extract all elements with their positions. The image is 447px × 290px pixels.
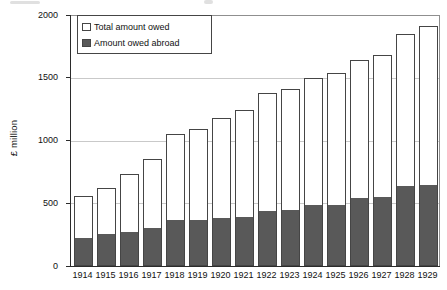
legend-swatch-total-icon — [82, 23, 91, 31]
plot-frame-right — [439, 15, 440, 266]
bar-abroad-segment-1914 — [75, 238, 92, 265]
bar-abroad-segment-1924 — [305, 205, 322, 265]
bar-abroad-segment-1926 — [351, 198, 368, 265]
y-tick-label-0: 0 — [18, 261, 58, 271]
y-tick-label-1000: 1000 — [18, 135, 58, 145]
legend-swatch-abroad-icon — [82, 39, 91, 47]
bar-1919 — [189, 129, 208, 266]
bar-1929 — [419, 26, 438, 266]
x-axis-line — [70, 266, 440, 267]
bar-abroad-segment-1916 — [121, 232, 138, 266]
bar-1924 — [304, 78, 323, 266]
bar-1914 — [74, 196, 93, 266]
y-tick-mark-1500 — [66, 77, 71, 78]
bar-abroad-segment-1925 — [328, 205, 345, 265]
bar-1915 — [97, 188, 116, 266]
y-tick-label-1500: 1500 — [18, 72, 58, 82]
y-tick-mark-500 — [66, 203, 71, 204]
legend-item-total: Total amount owed — [82, 20, 211, 33]
y-tick-mark-0 — [66, 266, 71, 267]
bar-abroad-segment-1918 — [167, 220, 184, 265]
legend-label-total: Total amount owed — [94, 22, 170, 32]
cropped-caption-fragment — [204, 0, 213, 4]
bar-1925 — [327, 73, 346, 266]
bar-abroad-segment-1927 — [374, 197, 391, 265]
legend: Total amount owed Amount owed abroad — [77, 15, 212, 54]
bar-abroad-segment-1921 — [236, 217, 253, 265]
national-debt-bar-chart: £ million Total amount owed Amount owed … — [0, 0, 447, 290]
y-axis-title: £ million — [8, 120, 19, 157]
bar-abroad-segment-1923 — [282, 210, 299, 265]
bar-1922 — [258, 93, 277, 266]
bar-1917 — [143, 159, 162, 266]
bar-1927 — [373, 55, 392, 266]
legend-item-abroad: Amount owed abroad — [82, 36, 211, 49]
bar-abroad-segment-1928 — [397, 186, 414, 265]
bar-1926 — [350, 60, 369, 266]
y-tick-mark-1000 — [66, 140, 71, 141]
y-tick-label-500: 500 — [18, 198, 58, 208]
bar-1921 — [235, 110, 254, 266]
bar-abroad-segment-1919 — [190, 220, 207, 265]
y-tick-label-2000: 2000 — [18, 10, 58, 20]
bar-1920 — [212, 118, 231, 266]
legend-label-abroad: Amount owed abroad — [94, 38, 180, 48]
bar-1916 — [120, 174, 139, 266]
bar-abroad-segment-1915 — [98, 234, 115, 265]
bar-1918 — [166, 134, 185, 266]
bar-abroad-segment-1917 — [144, 228, 161, 265]
bar-abroad-segment-1922 — [259, 211, 276, 265]
bar-abroad-segment-1929 — [420, 185, 437, 265]
cropped-caption-fragment — [10, 1, 40, 4]
y-tick-mark-2000 — [66, 15, 71, 16]
bar-1928 — [396, 34, 415, 266]
y-axis-line — [70, 15, 71, 267]
bar-abroad-segment-1920 — [213, 218, 230, 265]
bar-1923 — [281, 89, 300, 266]
x-tick-label-1929: 1929 — [414, 270, 442, 280]
